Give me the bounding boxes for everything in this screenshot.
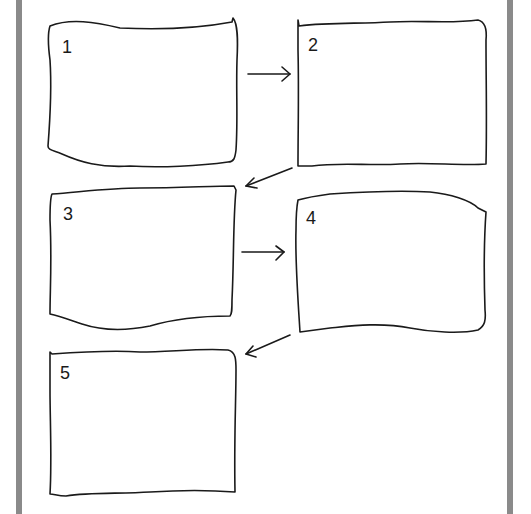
arrow-4-to-5 bbox=[246, 335, 290, 357]
arrow-3-to-4 bbox=[242, 246, 284, 260]
frame-2-number: 2 bbox=[308, 36, 318, 54]
frame-3-number: 3 bbox=[63, 205, 73, 223]
frame-1-number: 1 bbox=[62, 38, 72, 56]
arrow-1-to-2 bbox=[248, 67, 290, 81]
frame-4-number: 4 bbox=[306, 209, 316, 227]
frame-5-number: 5 bbox=[60, 364, 70, 382]
frame-3-outline bbox=[50, 186, 236, 330]
arrow-2-to-3 bbox=[246, 168, 292, 188]
storyboard-canvas bbox=[0, 0, 531, 514]
frame-5-outline bbox=[50, 349, 236, 496]
frame-2-outline bbox=[298, 20, 486, 166]
frame-4-outline bbox=[296, 191, 486, 332]
frame-1-outline bbox=[48, 18, 238, 167]
